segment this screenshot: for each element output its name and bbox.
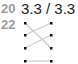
connection-line	[25, 35, 51, 48]
right-dot	[50, 60, 53, 63]
connection-line	[25, 23, 51, 35]
left-dot	[24, 22, 27, 25]
right-dot	[50, 34, 53, 37]
right-dot	[50, 22, 53, 25]
right-dot	[50, 47, 53, 50]
left-dot	[24, 60, 27, 63]
connection-diagram	[0, 0, 78, 64]
left-dot	[24, 47, 27, 50]
left-dot	[24, 34, 27, 37]
connection-line	[25, 23, 51, 48]
connection-lines	[25, 23, 51, 61]
